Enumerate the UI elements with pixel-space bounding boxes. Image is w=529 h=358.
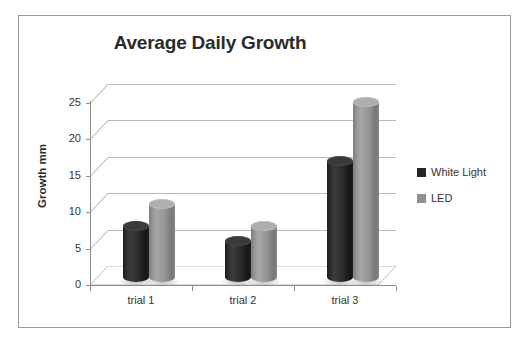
bar-top-ellipse xyxy=(327,156,353,166)
x-axis-tick-label: trial 1 xyxy=(96,294,186,306)
y-axis-tick-label: 10 xyxy=(51,205,81,217)
bar-body xyxy=(251,226,277,282)
bar-trial-1-led xyxy=(149,199,175,282)
gridline-depth-connector xyxy=(90,121,109,141)
x-axis-tick xyxy=(90,286,91,291)
legend-item-led: LED xyxy=(417,192,486,204)
bar-trial-2-white-light xyxy=(225,236,251,282)
y-axis-tick xyxy=(86,176,91,177)
x-axis-tick xyxy=(294,286,295,291)
legend-label: LED xyxy=(431,192,452,204)
legend-label: White Light xyxy=(431,166,486,178)
y-axis-tick-label: 20 xyxy=(51,132,81,144)
chart-title: Average Daily Growth xyxy=(0,32,420,54)
y-axis-tick xyxy=(86,249,91,250)
y-axis-title: Growth mm xyxy=(36,126,48,226)
bar-body xyxy=(327,161,353,282)
bar-top-ellipse xyxy=(251,221,277,231)
bar-top-ellipse xyxy=(225,236,251,246)
bar-body xyxy=(149,204,175,282)
y-axis-tick xyxy=(86,139,91,140)
legend-swatch-icon xyxy=(417,194,426,203)
y-axis-tick-label: 5 xyxy=(51,242,81,254)
legend-swatch-icon xyxy=(417,168,426,177)
y-axis-line xyxy=(90,101,91,286)
gridline-depth-connector xyxy=(90,157,109,177)
bar-body xyxy=(225,241,251,282)
gridline-depth-connector xyxy=(90,193,109,213)
legend-item-white-light: White Light xyxy=(417,166,486,178)
bar-body xyxy=(353,102,379,282)
y-axis-tick-label: 15 xyxy=(51,169,81,181)
gridline-depth-connector xyxy=(90,84,109,104)
y-axis-tick xyxy=(86,103,91,104)
x-axis-tick xyxy=(396,286,397,291)
y-axis-tick-label: 25 xyxy=(51,96,81,108)
y-axis-tick xyxy=(86,212,91,213)
x-axis-tick xyxy=(192,286,193,291)
bar-trial-2-led xyxy=(251,221,277,282)
bar-trial-1-white-light xyxy=(123,221,149,282)
y-axis-tick-label: 0 xyxy=(51,278,81,290)
bar-trial-3-white-light xyxy=(327,156,353,282)
bar-trial-3-led xyxy=(353,97,379,282)
bar-top-ellipse xyxy=(123,221,149,231)
gridline-depth-connector xyxy=(90,230,109,250)
x-axis-tick-label: trial 2 xyxy=(198,294,288,306)
bar-body xyxy=(123,226,149,282)
chart-legend: White LightLED xyxy=(417,166,486,218)
gridline xyxy=(108,84,396,85)
x-axis-tick-label: trial 3 xyxy=(300,294,390,306)
